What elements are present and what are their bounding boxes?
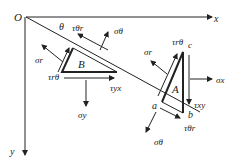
- stress-diagram: O x y θ B τθr σθ σr τrθ τyx σy A a b c τ…: [0, 0, 241, 163]
- x-axis-label: x: [213, 13, 219, 24]
- sigma-x-label: σx: [216, 75, 224, 85]
- sigma-r-left-label: σr: [35, 55, 43, 65]
- tau-r-theta-left-label: τrθ: [48, 72, 60, 82]
- sigma-theta-top-label: σθ: [114, 26, 123, 36]
- sigma-r-right-label: σr: [144, 47, 152, 57]
- sigma-y-label: σy: [78, 110, 86, 120]
- tau-r-theta-right-label: τrθ: [172, 37, 184, 47]
- tau-yx-label: τyx: [110, 83, 121, 93]
- origin-label: O: [14, 11, 22, 23]
- tau-theta-r-top-label: τθr: [72, 23, 84, 33]
- element-a-label: A: [171, 83, 179, 95]
- sigma-theta-bottom-arrow: [146, 112, 156, 132]
- y-axis-label: y: [9, 146, 15, 157]
- sigma-theta-top-arrow: [100, 32, 108, 50]
- sigma-r-right-arrow: [151, 61, 167, 74]
- tau-theta-r-bottom-label: τθr: [184, 123, 196, 133]
- point-c-label: c: [188, 40, 192, 50]
- point-a-label: a: [152, 100, 157, 111]
- sigma-theta-bottom-label: σθ: [154, 137, 163, 147]
- element-b-label: B: [78, 58, 85, 70]
- inclined-plane-line: [26, 17, 200, 112]
- point-b-label: b: [188, 109, 193, 120]
- sigma-r-left-arrow: [42, 45, 63, 62]
- angle-theta-label: θ: [59, 21, 64, 32]
- tau-xy-label: τxy: [194, 100, 205, 110]
